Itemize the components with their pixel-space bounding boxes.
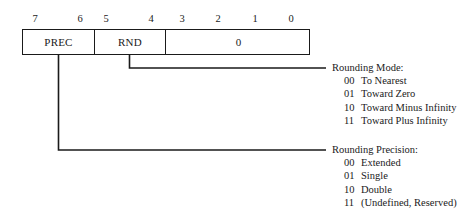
legend-text-mode-00: To Nearest — [361, 75, 407, 86]
legend-row-prec-11: 11(Undefined, Reserved) — [332, 196, 457, 209]
legend-text-mode-01: Toward Zero — [361, 88, 415, 99]
legend-text-mode-10: Toward Minus Infinity — [361, 102, 457, 113]
legend-code-mode-00: 00 — [344, 74, 361, 87]
legend-row-mode-10: 10Toward Minus Infinity — [332, 101, 457, 114]
field-cell-reserved: 0 — [165, 30, 311, 54]
field-label-reserved: 0 — [236, 36, 242, 48]
legend-code-prec-01: 01 — [344, 169, 361, 182]
bit-number-6: 6 — [73, 12, 87, 26]
bit-number-row: 7 6 5 4 3 2 1 0 — [22, 12, 310, 28]
bit-number-2: 2 — [211, 12, 225, 26]
legend-text-prec-00: Extended — [361, 157, 401, 168]
legend-row-prec-00: 00Extended — [332, 156, 457, 169]
legend-row-mode-11: 11Toward Plus Infinity — [332, 114, 457, 127]
legend-text-prec-01: Single — [361, 170, 388, 181]
legend-code-prec-00: 00 — [344, 156, 361, 169]
field-label-rnd: RND — [118, 36, 142, 48]
legend-code-prec-11: 11 — [344, 196, 361, 209]
legend-text-prec-10: Double — [361, 184, 392, 195]
bit-number-3: 3 — [175, 12, 189, 26]
legend-code-mode-01: 01 — [344, 87, 361, 100]
field-cell-prec: PREC — [23, 30, 94, 54]
legend-row-prec-10: 10Double — [332, 183, 457, 196]
bit-number-4: 4 — [144, 12, 158, 26]
legend-title-rounding-mode: Rounding Mode: — [332, 61, 457, 74]
field-cell-rnd: RND — [94, 30, 165, 54]
legend-text-mode-11: Toward Plus Infinity — [361, 115, 448, 126]
legend-row-mode-00: 00To Nearest — [332, 74, 457, 87]
legend-code-mode-10: 10 — [344, 101, 361, 114]
legend-code-mode-11: 11 — [344, 114, 361, 127]
leader-line-rnd — [130, 55, 327, 68]
register-box: PREC RND 0 — [22, 29, 310, 55]
legend-row-prec-01: 01Single — [332, 169, 457, 182]
bit-number-1: 1 — [248, 12, 262, 26]
legend-rounding-precision: Rounding Precision: 00Extended 01Single … — [332, 143, 457, 209]
register-bitfield-diagram: 7 6 5 4 3 2 1 0 PREC RND 0 Rounding Mode… — [0, 0, 465, 211]
leader-line-prec — [59, 55, 327, 150]
legend-text-prec-11: (Undefined, Reserved) — [361, 197, 457, 208]
field-label-prec: PREC — [44, 36, 72, 48]
legend-title-rounding-precision: Rounding Precision: — [332, 143, 457, 156]
bit-number-7: 7 — [28, 12, 42, 26]
legend-row-mode-01: 01Toward Zero — [332, 87, 457, 100]
legend-code-prec-10: 10 — [344, 183, 361, 196]
legend-rounding-mode: Rounding Mode: 00To Nearest 01Toward Zer… — [332, 61, 457, 127]
bit-number-5: 5 — [99, 12, 113, 26]
bit-number-0: 0 — [284, 12, 298, 26]
